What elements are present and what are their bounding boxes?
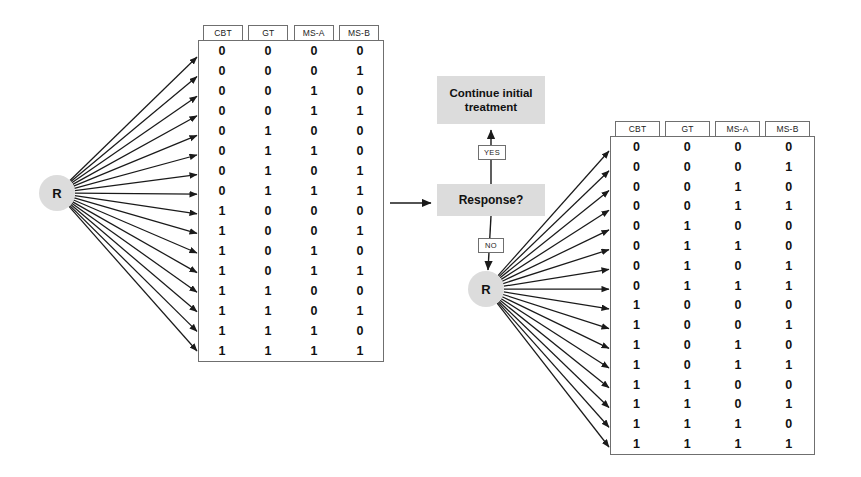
column-header-ms-b: MS-B bbox=[765, 121, 810, 137]
table-cell: 1 bbox=[713, 335, 764, 355]
table-cell: 0 bbox=[291, 61, 337, 81]
table-cell: 0 bbox=[763, 236, 814, 256]
randomization-arrow bbox=[502, 297, 609, 349]
table-row: 1110 bbox=[611, 414, 814, 434]
table-row: 1010 bbox=[199, 241, 383, 261]
randomization-arrow bbox=[502, 230, 609, 281]
diagram-canvas: R R 000000010010001101000110010101111000… bbox=[0, 0, 861, 477]
randomization-node-right-label: R bbox=[481, 282, 490, 297]
table-cell: 1 bbox=[291, 81, 337, 101]
table-cell: 0 bbox=[611, 157, 662, 177]
table-cell: 0 bbox=[199, 81, 245, 101]
table-cell: 1 bbox=[763, 434, 814, 454]
table-cell: 1 bbox=[245, 161, 291, 181]
table-cell: 1 bbox=[611, 375, 662, 395]
randomization-arrow bbox=[75, 196, 197, 214]
table-row: 0010 bbox=[199, 81, 383, 101]
table-row: 0000 bbox=[611, 137, 814, 157]
randomization-arrow bbox=[70, 57, 197, 181]
randomization-arrow bbox=[504, 269, 609, 286]
table-row: 0111 bbox=[199, 181, 383, 201]
table-cell: 1 bbox=[662, 395, 713, 415]
table-cell: 0 bbox=[245, 241, 291, 261]
table-cell: 0 bbox=[199, 41, 245, 61]
table-row: 0110 bbox=[199, 141, 383, 161]
table-row: 1100 bbox=[199, 281, 383, 301]
continue-initial-treatment-box: Continue initial treatment bbox=[437, 76, 545, 124]
table-row: 1000 bbox=[199, 201, 383, 221]
randomization-arrow bbox=[501, 299, 609, 368]
table-cell: 0 bbox=[662, 335, 713, 355]
table-cell: 0 bbox=[245, 261, 291, 281]
table-cell: 1 bbox=[245, 321, 291, 341]
column-header-gt: GT bbox=[248, 25, 288, 41]
table-cell: 0 bbox=[611, 256, 662, 276]
table-cell: 1 bbox=[713, 276, 764, 296]
table-cell: 1 bbox=[611, 296, 662, 316]
table-cell: 0 bbox=[763, 177, 814, 197]
table-cell: 0 bbox=[337, 201, 383, 221]
table-cell: 1 bbox=[199, 281, 245, 301]
table-cell: 1 bbox=[245, 301, 291, 321]
table-cell: 0 bbox=[662, 355, 713, 375]
table-cell: 1 bbox=[199, 261, 245, 281]
randomization-arrow bbox=[501, 210, 609, 279]
table-cell: 1 bbox=[337, 341, 383, 361]
randomization-arrow bbox=[72, 96, 197, 183]
table-cell: 0 bbox=[245, 101, 291, 121]
table-cell: 1 bbox=[763, 315, 814, 335]
table-row: 0010 bbox=[611, 177, 814, 197]
table-cell: 1 bbox=[763, 395, 814, 415]
table-cell: 0 bbox=[199, 161, 245, 181]
table-cell: 1 bbox=[662, 236, 713, 256]
table-cell: 1 bbox=[199, 341, 245, 361]
table-cell: 0 bbox=[713, 256, 764, 276]
table-cell: 1 bbox=[245, 181, 291, 201]
table-cell: 1 bbox=[713, 414, 764, 434]
table-cell: 1 bbox=[337, 101, 383, 121]
table-row: 1001 bbox=[611, 315, 814, 335]
table-row: 0001 bbox=[199, 61, 383, 81]
table-row: 1110 bbox=[199, 321, 383, 341]
response-decision-label: Response? bbox=[459, 193, 524, 208]
table-row: 1111 bbox=[611, 434, 814, 454]
randomization-arrow bbox=[74, 155, 197, 188]
table-cell: 0 bbox=[245, 81, 291, 101]
table-cell: 1 bbox=[291, 101, 337, 121]
table-row: 1100 bbox=[611, 375, 814, 395]
table-cell: 1 bbox=[199, 301, 245, 321]
randomization-arrow bbox=[71, 77, 197, 182]
table-row: 0110 bbox=[611, 236, 814, 256]
table-cell: 0 bbox=[291, 121, 337, 141]
table-cell: 0 bbox=[611, 216, 662, 236]
table-cell: 0 bbox=[337, 81, 383, 101]
table-cell: 0 bbox=[713, 216, 764, 236]
randomization-fan-left bbox=[69, 57, 197, 351]
randomization-arrow bbox=[74, 200, 197, 253]
randomization-arrow bbox=[71, 205, 197, 312]
table-cell: 0 bbox=[199, 101, 245, 121]
table-cell: 1 bbox=[245, 121, 291, 141]
table-cell: 1 bbox=[662, 256, 713, 276]
table-cell: 0 bbox=[611, 177, 662, 197]
table-row: 1011 bbox=[611, 355, 814, 375]
treatment-allocation-table-right: 0000000100100011010001100101011110001001… bbox=[610, 136, 815, 455]
table-cell: 1 bbox=[245, 141, 291, 161]
table-cell: 0 bbox=[713, 375, 764, 395]
table-cell: 1 bbox=[291, 181, 337, 201]
table-cell: 0 bbox=[662, 177, 713, 197]
table-cell: 0 bbox=[245, 41, 291, 61]
table-cell: 0 bbox=[763, 137, 814, 157]
table-cell: 1 bbox=[291, 341, 337, 361]
table-cell: 1 bbox=[763, 355, 814, 375]
table-cell: 0 bbox=[763, 335, 814, 355]
table-cell: 1 bbox=[337, 301, 383, 321]
table-row: 1101 bbox=[199, 301, 383, 321]
table-cell: 0 bbox=[199, 61, 245, 81]
table-cell: 0 bbox=[662, 157, 713, 177]
randomization-arrow bbox=[69, 206, 197, 351]
table-cell: 0 bbox=[245, 201, 291, 221]
table-cell: 1 bbox=[662, 414, 713, 434]
table-cell: 0 bbox=[611, 236, 662, 256]
table-right-headers: CBTGTMS-AMS-B bbox=[615, 121, 810, 137]
